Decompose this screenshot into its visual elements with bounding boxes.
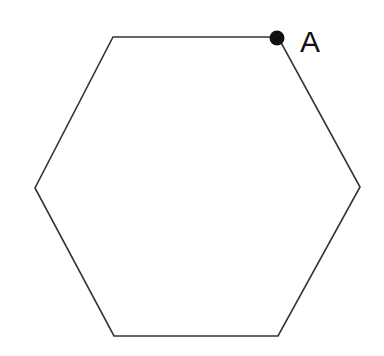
diagram-background [0,0,384,356]
hexagon-diagram: A [0,0,384,356]
point-a-marker [270,31,285,46]
vertex-label-a: A [300,25,320,58]
figure-canvas: A [0,0,384,356]
